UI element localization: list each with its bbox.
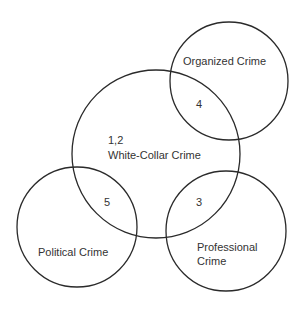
circle-professional-crime <box>166 171 286 291</box>
overlap-number-professional: 3 <box>196 196 202 209</box>
number-white-collar: 1,2 <box>108 134 123 147</box>
overlap-number-political: 5 <box>104 196 110 209</box>
label-political-crime: Political Crime <box>38 246 108 259</box>
venn-diagram: Organized Crime 4 1,2 White-Collar Crime… <box>0 0 301 309</box>
overlap-number-organized: 4 <box>196 98 202 111</box>
circle-political-crime <box>17 167 137 287</box>
label-professional-line1: Professional <box>197 241 258 254</box>
label-professional-line2: Crime <box>197 255 226 268</box>
circle-organized-crime <box>170 22 288 140</box>
label-organized-crime: Organized Crime <box>183 55 266 68</box>
label-white-collar-crime: White-Collar Crime <box>108 149 201 162</box>
